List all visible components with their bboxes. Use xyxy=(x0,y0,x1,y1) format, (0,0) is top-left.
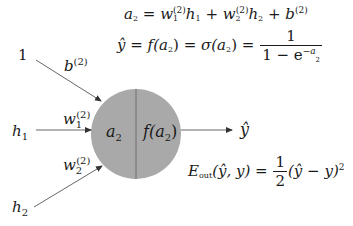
neuron-activation-label: f(a2) xyxy=(143,124,177,143)
loss-equation: Eout(ŷ, y) = 12(ŷ − y)2 xyxy=(188,154,345,190)
input-h1-label: h1 xyxy=(12,124,28,142)
neuron-preactivation-label: a2 xyxy=(106,124,122,143)
sigmoid-fraction: 11 − e−a2 xyxy=(260,28,322,64)
activation-equation: ŷ = f(a2) = σ(a2) = 11 − e−a2 xyxy=(117,28,323,64)
preactivation-equation: a2 = w1(2)h1 + w2(2)h2 + b(2) xyxy=(124,6,308,23)
bias-weight-label: b(2) xyxy=(64,57,88,74)
weight-w2-label: w2(2) xyxy=(63,156,90,176)
bias-input-label: 1 xyxy=(18,48,28,63)
half-fraction: 12 xyxy=(273,154,287,190)
weight-w1-label: w1(2) xyxy=(63,110,90,130)
output-yhat-label: ŷ xyxy=(240,122,249,138)
input-h2-label: h2 xyxy=(12,200,28,218)
